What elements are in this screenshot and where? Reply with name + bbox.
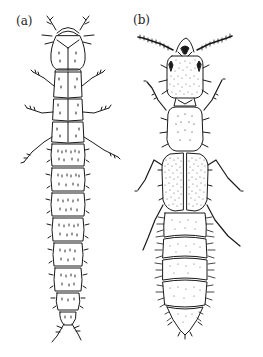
larva-illustration (21, 16, 120, 342)
stipple-texture (165, 60, 206, 323)
figure-canvas (0, 0, 263, 357)
